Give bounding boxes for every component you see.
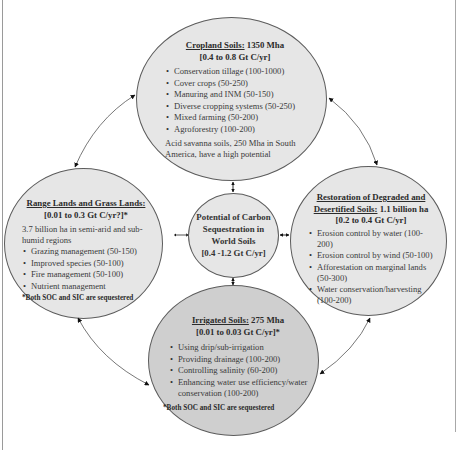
list-item: Nutrient management <box>22 281 160 292</box>
cropland-note: Acid savanna soils, 250 Mha in South Ame… <box>165 138 305 160</box>
cropland-rate: [0.4 to 0.8 Gt C/yr] <box>165 52 305 64</box>
irrigated-title: Irrigated Soils: 275 Mha <box>163 315 313 327</box>
rangelands-title: Range Lands and Grass Lands: <box>12 198 160 210</box>
cropland-content: Cropland Soils: 1350 Mha [0.4 to 0.8 Gt … <box>165 40 305 160</box>
center-line-4: [0.4 -1.2 Gt C/yr] <box>190 247 277 259</box>
rangelands-footnote: *Both SOC and SIC are sequestered <box>12 293 160 304</box>
cropland-list: Conservation tillage (100-1000) Cover cr… <box>165 66 305 135</box>
list-item: Conservation tillage (100-1000) <box>165 66 305 77</box>
list-item: Improved species (50-100) <box>22 258 160 269</box>
list-item: Afforestation on marginal lands (50-300) <box>308 262 434 284</box>
list-item: Fire management (50-100) <box>22 269 160 280</box>
cropland-title-name: Cropland Soils: <box>186 40 245 50</box>
restoration-title-area: 1.1 billion ha <box>377 204 428 214</box>
list-item: Erosion control by wind (50-100) <box>308 250 434 261</box>
cropland-title-area: 1350 Mha <box>245 40 285 50</box>
irrigated-title-area: 275 Mha <box>249 315 284 325</box>
irrigated-content: Irrigated Soils: 275 Mha [0.01 to 0.03 G… <box>163 315 313 414</box>
list-item: Enhancing water use efficiency/water con… <box>169 377 313 399</box>
cropland-title: Cropland Soils: 1350 Mha <box>165 40 305 52</box>
rangelands-rate: [0.01 to 0.3 Gt C/yr?]* <box>12 210 160 222</box>
center-line-3: World Soils <box>190 235 277 247</box>
list-item: Water conservation/harvesting (100-200) <box>308 284 434 306</box>
list-item: Erosion control by water (100-200) <box>308 228 434 250</box>
irrigated-list: Using drip/sub-irrigation Providing drai… <box>163 342 313 399</box>
rangelands-title-name: Range Lands and Grass Lands: <box>27 198 146 208</box>
center-line-1: Potential of Carbon <box>190 211 277 223</box>
list-item: Mixed farming (50-200) <box>165 112 305 123</box>
rangelands-content: Range Lands and Grass Lands: [0.01 to 0.… <box>12 198 160 304</box>
restoration-title-line1: Restoration of Degraded and <box>317 192 426 202</box>
restoration-rate: [0.2 to 0.4 Gt C/yr] <box>300 215 442 227</box>
list-item: Using drip/sub-irrigation <box>169 342 313 353</box>
irrigated-rate: [0.01 to 0.03 Gt C/yr]* <box>163 327 313 339</box>
restoration-list: Erosion control by water (100-200) Erosi… <box>300 228 442 307</box>
list-item: Diverse cropping systems (50-250) <box>165 101 305 112</box>
list-item: Controlling salinity (60-200) <box>169 365 313 376</box>
restoration-title-line2: Desertified Soils: <box>314 204 378 214</box>
rangelands-list: Grazing management (50-150) Improved spe… <box>12 246 160 292</box>
irrigated-footnote: *Both SOC and SIC are sequestered <box>163 403 313 414</box>
list-item: Manuring and INM (50-150) <box>165 89 305 100</box>
center-line-2: Sequestration in <box>190 223 277 235</box>
rangelands-desc: 3.7 billion ha in semi-arid and sub-humi… <box>12 224 160 246</box>
list-item: Grazing management (50-150) <box>22 246 160 257</box>
center-content: Potential of Carbon Sequestration in Wor… <box>190 211 277 259</box>
list-item: Agroforestry (100-200) <box>165 124 305 135</box>
irrigated-title-name: Irrigated Soils: <box>192 315 249 325</box>
list-item: Providing drainage (100-200) <box>169 354 313 365</box>
list-item: Cover crops (50-250) <box>165 78 305 89</box>
restoration-title: Restoration of Degraded and Desertified … <box>300 192 442 215</box>
restoration-content: Restoration of Degraded and Desertified … <box>300 192 442 307</box>
